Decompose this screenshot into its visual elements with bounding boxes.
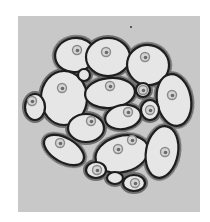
nucleolus <box>105 51 109 55</box>
nucleolus <box>31 100 35 104</box>
cell-bottom-a <box>86 162 106 178</box>
nucleolus <box>90 120 94 124</box>
cell-left-edge <box>25 94 45 120</box>
nucleolus <box>149 109 153 113</box>
cell-membrane <box>107 172 123 184</box>
nucleolus <box>61 87 65 91</box>
nucleolus <box>109 85 113 89</box>
nucleolus <box>127 111 131 115</box>
nucleolus <box>144 56 148 60</box>
nucleolus <box>164 151 168 155</box>
cell-membrane <box>86 38 130 76</box>
nucleolus <box>131 139 135 143</box>
nucleolus <box>76 49 80 53</box>
micrograph-image <box>0 0 210 222</box>
nucleolus <box>171 94 175 98</box>
cell-membrane <box>68 114 104 142</box>
nucleolus <box>59 142 63 146</box>
nucleolus <box>134 182 138 186</box>
cell-top-center <box>86 38 130 76</box>
cell-bottom-c <box>123 175 145 191</box>
nucleolus <box>96 169 100 173</box>
nucleolus <box>142 89 146 93</box>
cell-membrane <box>78 69 90 81</box>
cell-cluster-micrograph <box>0 0 210 222</box>
cell-inner-small-a <box>136 83 150 97</box>
dust-speck <box>130 26 132 28</box>
cell-inner-small-c <box>78 69 90 81</box>
nucleolus <box>117 148 121 152</box>
cell-bottom-b <box>107 172 123 184</box>
cell-inner-small-b <box>141 100 159 120</box>
cell-left-mid <box>68 114 104 142</box>
